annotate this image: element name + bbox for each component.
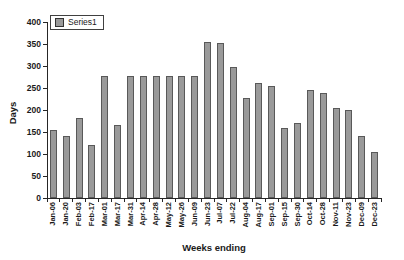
- x-tick-label: Apr-14: [138, 202, 148, 242]
- x-tick-mark: [111, 199, 112, 202]
- y-tick-mark: [43, 154, 47, 155]
- x-tick-label: Jul-22: [228, 202, 238, 242]
- x-tick-label: Jun-09: [190, 202, 200, 242]
- x-tick-mark: [342, 199, 343, 202]
- bar-Sep-01: [268, 86, 275, 198]
- bar-Jun-09: [191, 76, 198, 198]
- y-tick-mark: [43, 22, 47, 23]
- x-tick-label: May-12: [164, 202, 174, 242]
- x-tick-mark: [355, 199, 356, 202]
- x-tick-label: Sep-15: [280, 202, 290, 242]
- y-tick-label: 200: [17, 105, 41, 115]
- bar-Aug-17: [255, 83, 262, 198]
- y-tick-mark: [43, 66, 47, 67]
- x-tick-label: Sep-01: [267, 202, 277, 242]
- bar-Nov-23: [345, 110, 352, 198]
- x-tick-label: Mar-17: [113, 202, 123, 242]
- y-tick-label: 400: [17, 17, 41, 27]
- y-tick-mark: [43, 176, 47, 177]
- x-tick-label: Oct-14: [305, 202, 315, 242]
- x-tick-label: Oct-28: [318, 202, 328, 242]
- x-tick-label: Aug-17: [254, 202, 264, 242]
- y-tick-label: 150: [17, 127, 41, 137]
- x-tick-label: Jun-23: [203, 202, 213, 242]
- x-tick-label: Nov-11: [331, 202, 341, 242]
- bar-May-12: [166, 76, 173, 198]
- bar-Jan-20: [63, 136, 70, 198]
- legend: Series1: [50, 15, 104, 30]
- x-tick-mark: [329, 199, 330, 202]
- x-tick-label: Feb-17: [87, 202, 97, 242]
- x-tick-mark: [265, 199, 266, 202]
- bar-Jan-06: [50, 130, 57, 198]
- x-tick-label: Jan-06: [48, 202, 58, 242]
- y-tick-mark: [43, 110, 47, 111]
- x-tick-label: Jul-07: [215, 202, 225, 242]
- x-tick-mark: [162, 199, 163, 202]
- x-axis-title: Weeks ending: [47, 242, 381, 253]
- bar-Apr-28: [153, 76, 160, 198]
- bar-Nov-11: [333, 108, 340, 198]
- bar-Feb-03: [76, 118, 83, 198]
- y-tick-label: 0: [17, 193, 41, 203]
- x-tick-mark: [124, 199, 125, 202]
- x-tick-mark: [175, 199, 176, 202]
- x-tick-mark: [188, 199, 189, 202]
- x-tick-label: Mar-31: [126, 202, 136, 242]
- x-tick-label: Dec-23: [370, 202, 380, 242]
- bar-Dec-09: [358, 136, 365, 198]
- bar-Sep-30: [294, 123, 301, 198]
- legend-series-label: Series1: [68, 18, 97, 27]
- y-tick-label: 350: [17, 39, 41, 49]
- y-tick-label: 250: [17, 83, 41, 93]
- bar-Jun-23: [204, 42, 211, 198]
- y-tick-mark: [43, 132, 47, 133]
- x-tick-mark: [278, 199, 279, 202]
- bar-chart: Days Weeks ending Series1 05010015020025…: [0, 0, 404, 260]
- x-tick-label: Nov-23: [344, 202, 354, 242]
- x-tick-label: Dec-09: [357, 202, 367, 242]
- x-tick-label: May-26: [177, 202, 187, 242]
- bar-Jul-22: [230, 67, 237, 198]
- bar-Mar-31: [127, 76, 134, 198]
- legend-series-marker-icon: [55, 18, 64, 27]
- bar-Mar-01: [101, 76, 108, 198]
- bar-Dec-23: [371, 152, 378, 198]
- bar-May-26: [178, 76, 185, 198]
- y-tick-label: 50: [17, 171, 41, 181]
- y-tick-mark: [43, 88, 47, 89]
- x-tick-label: Apr-28: [151, 202, 161, 242]
- bar-Jul-07: [217, 43, 224, 198]
- bar-Feb-17: [88, 145, 95, 198]
- x-tick-label: Jan-20: [61, 202, 71, 242]
- x-tick-mark: [98, 199, 99, 202]
- bar-Apr-14: [140, 76, 147, 198]
- y-tick-mark: [43, 44, 47, 45]
- x-tick-mark: [368, 199, 369, 202]
- x-tick-mark: [201, 199, 202, 202]
- bar-Oct-14: [307, 90, 314, 198]
- x-tick-mark: [252, 199, 253, 202]
- x-tick-label: Aug-04: [241, 202, 251, 242]
- bar-Oct-28: [320, 93, 327, 198]
- y-tick-label: 100: [17, 149, 41, 159]
- x-tick-mark: [381, 199, 382, 202]
- x-tick-mark: [85, 199, 86, 202]
- bar-Mar-17: [114, 125, 121, 198]
- x-tick-mark: [291, 199, 292, 202]
- y-tick-label: 300: [17, 61, 41, 71]
- x-tick-label: Feb-03: [74, 202, 84, 242]
- bar-Aug-04: [243, 98, 250, 198]
- x-tick-label: Sep-30: [293, 202, 303, 242]
- x-tick-label: Mar-01: [100, 202, 110, 242]
- bar-Sep-15: [281, 128, 288, 198]
